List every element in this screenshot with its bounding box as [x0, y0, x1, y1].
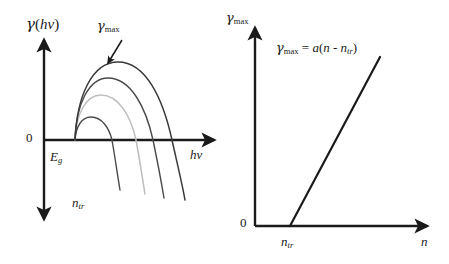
- left-origin-label: 0: [26, 131, 33, 144]
- gain-equation-label: γmax = a(n - ntr): [276, 41, 357, 56]
- transparency-carrier-density-label: ntr: [281, 235, 293, 250]
- gain-curve-1-highest: [75, 62, 185, 200]
- right-origin-label: 0: [240, 216, 247, 229]
- linear-gain-line: [290, 57, 380, 226]
- bandgap-label: Eg: [50, 150, 62, 165]
- gain-curve-4-lowest: [75, 117, 120, 190]
- right-x-axis-label: n: [421, 235, 428, 248]
- left-panel-group: [44, 40, 214, 219]
- figure-canvas: [0, 0, 449, 264]
- gain-curve-2: [75, 78, 164, 198]
- figure-root: γ(hν) γmax 0 Eg hν ntr γmax γmax = a(n -…: [0, 0, 449, 264]
- right-y-axis-label: γmax: [226, 11, 249, 26]
- gamma-max-pointer-arrow: [108, 40, 122, 63]
- gamma-max-annotation-label: γmax: [97, 19, 120, 34]
- left-carrier-density-label: ntr: [72, 196, 84, 211]
- left-x-axis-label: hν: [190, 148, 202, 161]
- right-panel-group: [255, 28, 427, 226]
- left-y-axis-label: γ(hν): [26, 17, 59, 32]
- gain-curve-3-light: [75, 95, 145, 194]
